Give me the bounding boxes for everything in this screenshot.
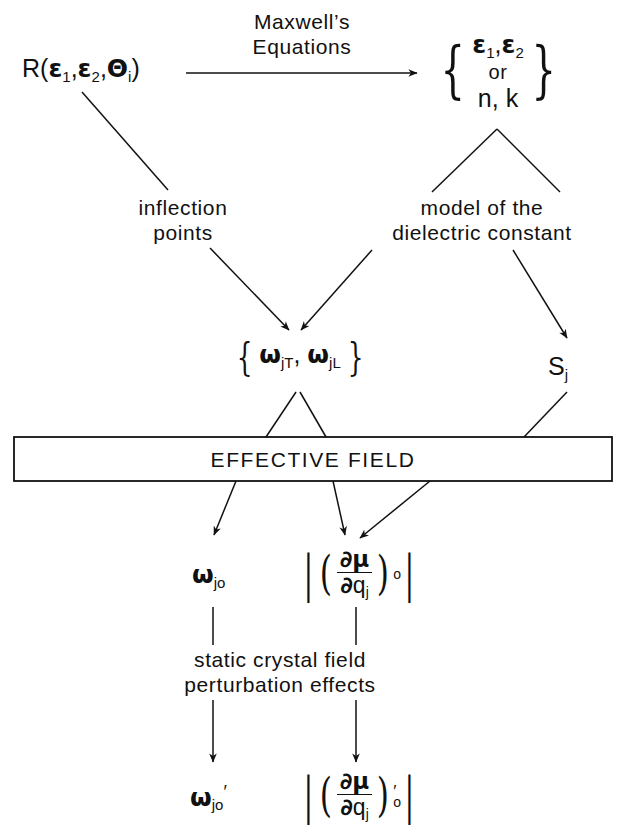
strength-S: S (548, 352, 565, 380)
dipole-derivative-prime-outer: ′ o (392, 784, 401, 809)
reflectivity-comma-2: , (100, 54, 107, 82)
omega-jo-prime-symbol: ω (190, 783, 212, 812)
reflectivity-close-paren: ) (131, 54, 139, 82)
epsilon-group-row-1: ε1,ε2 (472, 30, 523, 61)
edge-model-to-omega-group (301, 250, 372, 330)
mu-symbol: μ (352, 546, 369, 572)
dipole-derivative-prime-numerator: ∂μ (337, 770, 372, 794)
omega-group-brace-open: { (237, 340, 253, 372)
dipole-derivative-bar-right: | (405, 555, 414, 594)
edge-reflectivity-to-inflection (82, 92, 168, 190)
dipole-derivative-paren-open: ( (320, 556, 332, 592)
dipole-derivative-prime-expression: | ( ∂μ ∂qj ) ′ o | (300, 770, 418, 823)
dipole-derivative-numerator: ∂μ (337, 548, 372, 572)
reflectivity-theta: Θ (107, 54, 128, 83)
reflectivity-epsilon-1-subscript: 1 (62, 68, 70, 85)
epsilon-group-brace-open: { (440, 45, 464, 96)
maxwell-line-1: Maxwell’s (222, 10, 382, 35)
omega-jo-prime-mark: ′ (223, 782, 226, 802)
reflectivity-epsilon-1: ε (48, 54, 62, 83)
node-oscillator-strength: Sj (548, 352, 568, 383)
reflectivity-R: R (22, 54, 40, 82)
edge-effective-field-to-omega-jo (214, 481, 236, 535)
omega-group-brace-close: } (348, 340, 364, 372)
dipole-derivative-prime-paren-open: ( (320, 778, 332, 814)
node-inflection-points: inflection points (113, 196, 253, 246)
omega-jT: ω (259, 340, 281, 369)
dipole-derivative-prime-paren-close: ) (377, 778, 389, 814)
node-dipole-derivative: | ( ∂μ ∂qj ) o | (300, 548, 418, 601)
q-subscript-prime: j (366, 808, 369, 823)
strength-subscript: j (565, 366, 568, 383)
edge-effective-field-to-dipole-deriv (333, 481, 345, 535)
edge-inflection-to-omega-group (210, 248, 289, 330)
q-symbol: q (353, 572, 366, 598)
omega-group-comma: , (293, 340, 300, 368)
node-dielectric-model: model of the dielectric constant (370, 196, 594, 246)
dipole-derivative-denominator: ∂qj (337, 572, 371, 600)
node-omega-jo-prime: ωjo′ (190, 782, 227, 814)
epsilon-group-brace-close: } (531, 45, 555, 96)
omega-group-content: ωjT, ωjL (257, 340, 343, 371)
perturbation-line-2: perturbation effects (135, 673, 425, 698)
dipole-derivative-prime-fraction: ∂μ ∂qj (335, 770, 374, 823)
dipole-derivative-outer: o (392, 568, 401, 581)
dielectric-model-line-1: model of the (370, 196, 594, 221)
node-reflectivity: R(ε1,ε2,Θi) (22, 54, 140, 85)
partial-symbol-numerator: ∂ (340, 546, 353, 572)
perturbation-line-1: static crystal field (135, 648, 425, 673)
edge-model-to-strength (513, 250, 567, 338)
epsilon-group-eps-2: ε (501, 30, 515, 59)
dipole-derivative-paren-close: ) (377, 556, 389, 592)
effective-field-label: EFFECTIVE FIELD (14, 448, 612, 473)
dielectric-model-line-2: dielectric constant (370, 221, 594, 246)
node-omega-group: { ωjT, ωjL } (205, 340, 395, 372)
omega-jL-subscript: jL (329, 354, 341, 371)
inflection-line-1: inflection (113, 196, 253, 221)
maxwell-equations-label: Maxwell’s Equations (222, 10, 382, 60)
omega-jo-prime-subscript: jo (212, 796, 224, 813)
node-dipole-derivative-prime: | ( ∂μ ∂qj ) ′ o | (300, 770, 418, 823)
reflectivity-comma-1: , (71, 54, 78, 82)
partial-symbol-prime-denominator: ∂ (340, 794, 353, 820)
epsilon-group-row-3-nk: n, k (478, 84, 518, 112)
edge-strength-to-effective-field (524, 392, 567, 437)
edge-eps-group-to-strength (497, 129, 560, 192)
dipole-derivative-prime-bar-right: | (405, 777, 414, 816)
omega-jo-subscript: jo (214, 574, 226, 591)
dipole-derivative-outer-subscript: o (393, 568, 401, 581)
dipole-derivative-expression: | ( ∂μ ∂qj ) o | (300, 548, 418, 601)
q-symbol-prime: q (353, 794, 366, 820)
reflectivity-epsilon-2: ε (78, 54, 92, 83)
dipole-derivative-bar-left: | (304, 555, 313, 594)
epsilon-group-eps-1: ε (472, 30, 486, 59)
node-perturbation-label: static crystal field perturbation effect… (135, 648, 425, 698)
node-omega-jo: ωjo (192, 560, 225, 591)
edge-omega-group-to-effective-field-right (300, 392, 326, 437)
mu-symbol-prime: μ (352, 768, 369, 794)
epsilon-group-row-2-or: or (489, 61, 508, 83)
reflectivity-epsilon-2-subscript: 2 (92, 68, 100, 85)
dipole-derivative-prime-denominator: ∂qj (337, 794, 371, 822)
diagram-canvas: { e1,e2 } : horizontal arrow under "Maxw… (0, 0, 632, 833)
edge-effective-field-right-to-dipole-deriv (360, 481, 430, 538)
maxwell-line-2: Equations (222, 35, 382, 60)
q-subscript: j (366, 586, 369, 601)
epsilon-group-eps-1-subscript: 1 (486, 44, 494, 61)
edge-eps-group-to-model (432, 129, 497, 192)
dipole-derivative-prime-outer-subscript: o (393, 796, 401, 809)
epsilon-group-eps-2-subscript: 2 (515, 44, 523, 61)
connector-layer: { e1,e2 } : horizontal arrow under "Maxw… (0, 0, 632, 833)
omega-jL: ω (307, 340, 329, 369)
partial-symbol-prime-numerator: ∂ (340, 768, 353, 794)
omega-jT-subscript: jT (281, 354, 294, 371)
edge-omega-group-to-effective-field-left (266, 392, 296, 437)
epsilon-group-stack: ε1,ε2 or n, k (472, 30, 523, 112)
partial-symbol-denominator: ∂ (340, 572, 353, 598)
dipole-derivative-prime-bar-left: | (304, 777, 313, 816)
dipole-derivative-fraction: ∂μ ∂qj (335, 548, 374, 601)
inflection-line-2: points (113, 221, 253, 246)
node-epsilon-group: { ε1,ε2 or n, k } (432, 30, 564, 112)
omega-jo-symbol: ω (192, 560, 214, 589)
